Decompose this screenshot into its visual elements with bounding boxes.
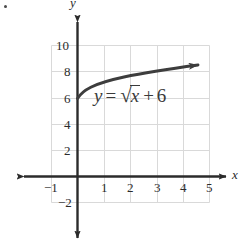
equation-equals: = [105, 85, 116, 106]
y-axis-label: y [70, 0, 76, 9]
y-tick-label-8: 8 [64, 65, 71, 78]
grid-lines [52, 46, 210, 203]
y-tick-label-10: 10 [56, 39, 69, 52]
radical-expression: √x [119, 85, 140, 106]
coordinate-plane [0, 0, 250, 248]
x-tick-label-3: 3 [154, 181, 161, 194]
y-tick-label-2: 2 [64, 144, 71, 157]
equation-annotation: y=√x+6 [94, 85, 166, 106]
equation-plus: + [143, 85, 154, 106]
x-axis-label: x [232, 168, 238, 181]
y-tick-label-4: 4 [64, 118, 71, 131]
radicand: x [130, 85, 140, 105]
equation-constant: 6 [157, 85, 167, 106]
graph-figure: 10 8 6 4 2 −2 −1 1 2 3 4 5 y x y=√x+6 [0, 0, 250, 248]
x-tick-label-2: 2 [127, 181, 134, 194]
y-tick-label-6: 6 [64, 92, 71, 105]
x-tick-label-1: 1 [101, 181, 108, 194]
x-tick-label-4: 4 [180, 181, 187, 194]
x-tick-label-neg1: −1 [44, 181, 58, 194]
x-tick-label-5: 5 [206, 181, 213, 194]
y-tick-label-neg2: −2 [58, 196, 72, 209]
equation-lhs: y [94, 85, 102, 106]
